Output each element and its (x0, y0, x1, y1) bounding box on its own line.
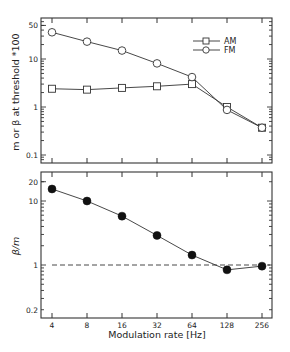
plot-frame (41, 172, 272, 318)
legend-fm-label: FM (224, 46, 236, 55)
y-tick-label: 0.2 (26, 306, 38, 315)
bottom-y-axis-label: β/m (10, 237, 21, 257)
bottom-panel: 0.21102048163264128256 (26, 172, 272, 330)
data-point-filled (258, 262, 266, 270)
y-tick-label: 50 (28, 21, 38, 30)
x-tick-label: 256 (255, 321, 270, 330)
y-tick-label: 1 (33, 103, 38, 112)
data-point-square (49, 85, 56, 92)
data-point-filled (83, 197, 91, 205)
x-tick-label: 8 (85, 321, 90, 330)
data-point-circle (188, 73, 196, 81)
data-point-filled (223, 266, 231, 274)
legend: AM FM (193, 37, 236, 55)
square-marker-icon (203, 38, 209, 44)
legend-am-label: AM (224, 37, 236, 46)
data-point-square (189, 81, 196, 88)
figure: 0.111050 0.21102048163264128256 m or β a… (0, 0, 290, 352)
plot-frame (41, 18, 272, 163)
data-point-circle (48, 28, 56, 36)
data-point-square (154, 83, 161, 90)
data-point-circle (258, 124, 266, 132)
x-axis-label: Modulation rate [Hz] (108, 329, 206, 340)
data-point-square (119, 84, 126, 91)
y-tick-label: 1 (33, 261, 38, 270)
y-tick-label: 0.1 (26, 151, 38, 160)
y-tick-label: 20 (28, 178, 38, 187)
data-point-square (84, 86, 91, 93)
data-point-filled (188, 251, 196, 259)
data-point-circle (153, 60, 161, 68)
circle-marker-icon (203, 47, 209, 53)
y-tick-label: 10 (28, 55, 38, 64)
data-point-filled (48, 185, 56, 193)
data-point-circle (118, 47, 126, 55)
data-point-circle (223, 106, 231, 114)
top-y-axis-label: m or β at threshold *100 (10, 33, 21, 150)
data-point-filled (118, 212, 126, 220)
y-tick-label: 10 (28, 197, 38, 206)
x-tick-label: 128 (220, 321, 235, 330)
data-point-filled (153, 231, 161, 239)
x-tick-label: 4 (50, 321, 55, 330)
data-point-circle (83, 38, 91, 46)
